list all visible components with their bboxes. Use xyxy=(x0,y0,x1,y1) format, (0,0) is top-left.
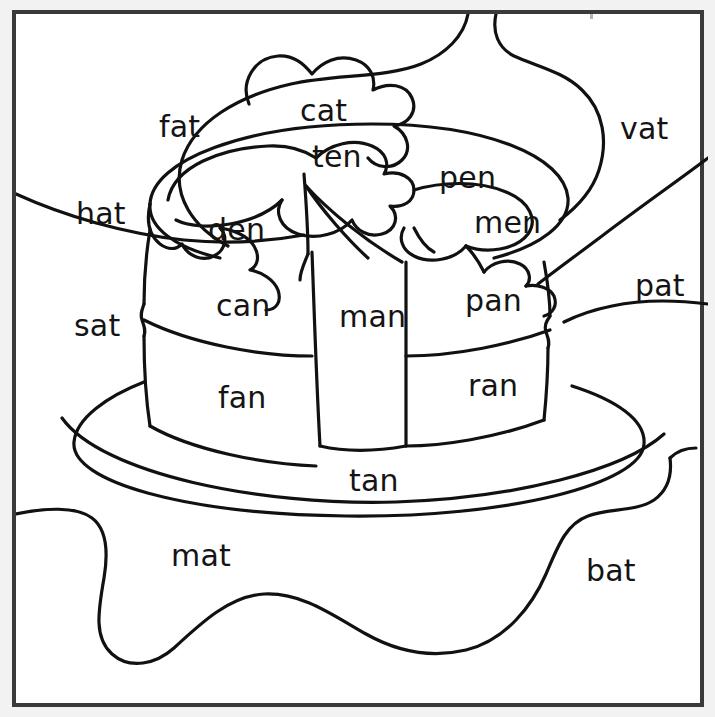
word-label-tan[interactable]: tan xyxy=(349,466,399,496)
word-label-fan[interactable]: fan xyxy=(218,383,267,413)
word-label-sat[interactable]: sat xyxy=(74,311,120,341)
word-label-ten[interactable]: ten xyxy=(312,142,362,172)
word-label-fat[interactable]: fat xyxy=(159,112,200,142)
word-label-can[interactable]: can xyxy=(216,291,271,321)
word-label-pan[interactable]: pan xyxy=(465,286,522,316)
cake-line-drawing xyxy=(16,14,708,711)
word-label-vat[interactable]: vat xyxy=(620,114,669,144)
word-label-pen[interactable]: pen xyxy=(439,163,496,193)
word-label-mat[interactable]: mat xyxy=(171,541,231,571)
word-label-cat[interactable]: cat xyxy=(300,96,347,126)
word-label-ran[interactable]: ran xyxy=(468,371,518,401)
cake-body-left xyxy=(141,230,316,466)
word-label-hat[interactable]: hat xyxy=(76,199,126,229)
word-label-bat[interactable]: bat xyxy=(586,556,636,586)
word-label-pat[interactable]: pat xyxy=(635,271,685,301)
artboard-frame: fat cat vat ten pen hat den men pat can … xyxy=(12,10,704,707)
word-label-men[interactable]: men xyxy=(474,208,541,238)
coloring-page: fat cat vat ten pen hat den men pat can … xyxy=(0,0,715,717)
word-label-den[interactable]: den xyxy=(208,215,265,245)
word-label-man[interactable]: man xyxy=(339,302,406,332)
